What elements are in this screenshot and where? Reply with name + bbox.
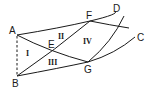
label-point-c: C <box>137 32 144 43</box>
label-point-g: G <box>84 64 92 75</box>
geometric-diagram: A B C D E F G I II III IV <box>0 0 156 90</box>
curve-f-right <box>90 21 129 28</box>
label-region-2: II <box>58 32 64 41</box>
curve-b-g-c <box>17 37 135 76</box>
label-region-4: IV <box>83 37 92 46</box>
label-region-3: III <box>48 58 57 67</box>
label-point-a: A <box>9 25 16 36</box>
label-region-1: I <box>26 49 29 58</box>
label-point-f: F <box>86 10 92 21</box>
label-point-b: B <box>12 78 19 89</box>
label-point-e: E <box>48 39 55 50</box>
label-point-d: D <box>113 3 120 14</box>
